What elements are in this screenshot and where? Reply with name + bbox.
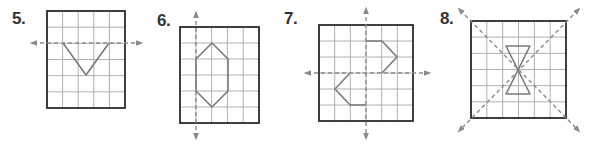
grid	[180, 27, 259, 123]
exercise-5-figure	[33, 11, 140, 108]
symmetry-figures	[0, 0, 590, 150]
grid	[47, 11, 125, 108]
exercise-6-figure	[180, 14, 259, 137]
exercise-8-figure	[460, 10, 578, 130]
exercise-7-figure	[307, 10, 428, 137]
